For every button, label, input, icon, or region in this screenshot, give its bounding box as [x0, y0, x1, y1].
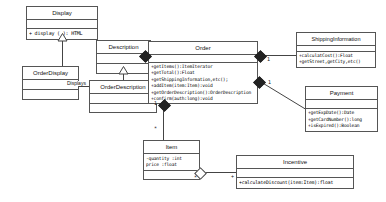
edge-label-displays: Displays — [66, 81, 87, 86]
class-member: +getCardNumber():long — [308, 117, 375, 124]
generalization-arrow-display — [57, 33, 68, 42]
multiplicity-order-item-source: 1 — [154, 101, 157, 106]
multiplicity-order-item-target: * — [154, 126, 157, 131]
class-member: +getExpDate():Date — [308, 110, 375, 117]
class-title-payment: Payment — [306, 87, 377, 100]
class-title-order: Order — [149, 42, 257, 55]
class-attributes-item: -quantity :int price :float — [144, 154, 199, 171]
class-title-order-description: OrderDescription — [90, 81, 156, 94]
class-title-item: Item — [144, 141, 199, 154]
multiplicity-order-shipping: 1 — [267, 57, 270, 62]
class-attributes-display — [27, 20, 97, 29]
class-member: +isExpired():Boolean — [308, 123, 375, 130]
class-attributes-order — [149, 55, 257, 63]
uml-class-diagram: Displays 1 1 1 * * + Display + display (… — [0, 0, 386, 202]
class-title-shipping-information: ShippingInformation — [297, 33, 375, 46]
multiplicity-order-incentive-target: + — [231, 174, 234, 179]
class-operations-item — [144, 171, 199, 179]
class-attributes-incentive — [237, 169, 353, 178]
class-title-order-display: OrderDisplay — [23, 67, 78, 80]
multiplicity-order-payment: 1 — [268, 80, 271, 85]
class-attributes-payment — [306, 100, 377, 109]
class-member: price :float — [146, 162, 197, 168]
class-box-order-description[interactable]: OrderDescription — [89, 80, 157, 113]
class-operations-order-display — [23, 90, 78, 99]
generalization-arrow-description — [118, 66, 129, 75]
class-operations-order-description — [90, 104, 156, 112]
class-box-incentive[interactable]: Incentive +calculateDiscount(item:Item):… — [236, 155, 354, 189]
class-operations-shipping-information: +calculatCost():Float +getStreet,getCity… — [297, 52, 375, 67]
class-operations-order: +getItems():ItemIterator +getTotal():Flo… — [149, 63, 257, 103]
class-operations-incentive: +calculateDiscount(item:Item):float — [237, 178, 353, 188]
class-title-incentive: Incentive — [237, 156, 353, 169]
class-member: +getStreet,getCity,etc() — [299, 59, 373, 65]
class-box-order[interactable]: Order +getItems():ItemIterator +getTotal… — [148, 41, 258, 104]
class-operations-payment: +getExpDate():Date +getCardNumber():long… — [306, 109, 377, 131]
multiplicity-order-incentive-source: * — [194, 175, 197, 180]
class-attributes-order-description — [90, 94, 156, 104]
class-title-display: Display — [27, 7, 97, 20]
class-box-payment[interactable]: Payment +getExpDate():Date +getCardNumbe… — [305, 86, 378, 132]
class-box-shipping-information[interactable]: ShippingInformation +calculatCost():Floa… — [296, 32, 376, 68]
class-member: +calculateDiscount(item:Item):float — [239, 179, 351, 186]
class-box-item[interactable]: Item -quantity :int price :float — [143, 140, 200, 180]
